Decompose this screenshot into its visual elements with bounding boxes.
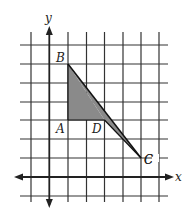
y-axis-up-arrow-icon <box>46 26 53 35</box>
point-label-c-redraw: C <box>144 153 153 167</box>
x-axis-left-arrow-icon <box>14 174 23 181</box>
x-axis-label: x <box>175 170 182 184</box>
coordinate-plane-diagram: x y B A D C C <box>0 0 185 216</box>
point-label-a: A <box>55 122 65 136</box>
point-label-b: B <box>55 51 65 65</box>
x-axis-right-arrow-icon <box>165 174 174 181</box>
y-axis-label: y <box>44 11 52 25</box>
point-label-d: D <box>91 122 102 136</box>
y-axis-down-arrow-icon <box>46 199 53 208</box>
